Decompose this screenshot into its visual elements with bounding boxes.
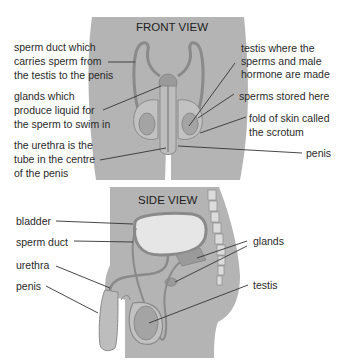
- side-bladder: [134, 213, 206, 255]
- reproductive-system-diagram: FRONT VIEW sperm duct which carries sper…: [0, 0, 339, 363]
- front-view-title: FRONT VIEW: [136, 21, 208, 33]
- label-bladder: bladder: [16, 215, 52, 227]
- front-testis-left: [139, 113, 155, 135]
- side-view: SIDE VIEW: [16, 187, 284, 358]
- leader-side-urethra: [56, 266, 110, 288]
- leader-side-penis: [46, 286, 98, 313]
- side-testis: [134, 306, 158, 340]
- front-view: FRONT VIEW sperm duct which carries sper…: [14, 17, 332, 180]
- label-scrotum: fold of skin called the scrotum: [249, 112, 332, 138]
- label-sperms-stored: sperms stored here: [239, 90, 330, 102]
- label-urethra: the urethra is the tube in the centre of…: [14, 139, 98, 179]
- label-side-sperm-duct: sperm duct: [16, 236, 68, 248]
- label-penis-front: penis: [306, 147, 331, 159]
- side-view-title: SIDE VIEW: [138, 194, 198, 206]
- side-penis: [99, 290, 118, 351]
- label-testis: testis where the sperms and male hormone…: [241, 42, 330, 80]
- label-sperm-duct: sperm duct which carries sperm from the …: [14, 41, 113, 81]
- label-side-testis: testis: [253, 279, 278, 291]
- label-side-penis: penis: [16, 280, 41, 292]
- label-side-urethra: urethra: [16, 259, 49, 271]
- label-side-glands: glands: [253, 235, 284, 247]
